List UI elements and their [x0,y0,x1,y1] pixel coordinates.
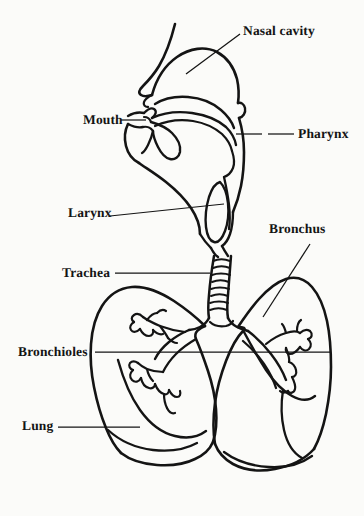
trachea-windpipe [208,256,231,318]
left-main-bronchus [155,330,196,372]
nose-profile-outline [139,24,175,107]
label-lung: Lung [22,419,53,433]
respiratory-system-figure: Nasal cavity Mouth Pharynx Larynx Bronch… [0,0,364,516]
label-larynx: Larynx [68,206,112,220]
left-lung-lobe-fissure [108,360,206,451]
soft-palate-uvula [224,151,234,177]
label-trachea: Trachea [62,266,110,280]
label-bronchus: Bronchus [269,222,325,236]
label-pharynx: Pharynx [298,127,349,141]
anatomy-line-art [0,0,364,516]
right-lung-outline [214,278,332,471]
left-upper-bronchiole-cluster [130,310,185,343]
hard-palate [152,112,236,151]
label-mouth: Mouth [83,113,123,127]
jaw-and-neck-outline [125,124,200,234]
label-nasal-cavity: Nasal cavity [243,24,315,38]
label-bronchioles: Bronchioles [18,345,88,359]
cranium-outline [152,49,245,118]
